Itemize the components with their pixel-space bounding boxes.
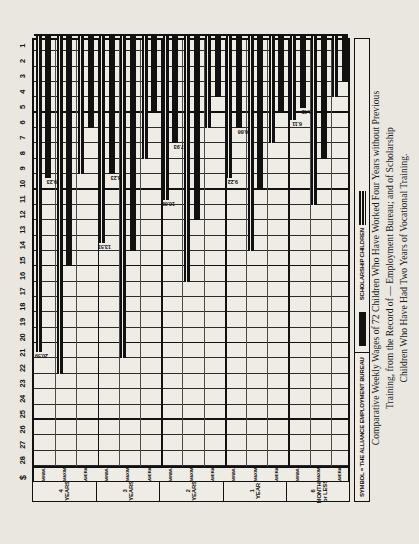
x-tick-8: 8	[18, 151, 27, 155]
x-axis-tick-row: 2827262524232221201918171615141312111098…	[18, 38, 32, 468]
bar-scholarship-children-row-4	[248, 36, 254, 251]
bar-scholarship-children-row-3	[269, 36, 275, 144]
stat-label-minimum: MINIMUM	[105, 467, 109, 481]
stat-label-average: AVERAGE	[275, 467, 279, 481]
stat-label-average: AVERAGE	[148, 467, 152, 481]
x-tick-21: 21	[18, 349, 27, 357]
figure-caption: Comparative Weekly Wages of 72 Children …	[369, 18, 413, 518]
bar-value-label: 9.23	[47, 179, 57, 185]
group-label-3-years: 3 YEARS	[97, 481, 161, 501]
x-tick-9: 9	[18, 167, 27, 171]
stat-label-average: AVERAGE	[84, 467, 88, 481]
x-tick-14: 14	[18, 241, 27, 249]
legend-entry-bureau	[355, 306, 369, 352]
stat-label-maximum: MAXIMUM	[317, 467, 321, 481]
x-tick-17: 17	[18, 288, 27, 296]
bar-scholarship-children-row-10	[120, 36, 126, 359]
currency-symbol: $	[18, 475, 28, 480]
stat-label-average: AVERAGE	[338, 467, 342, 481]
x-tick-16: 16	[18, 272, 27, 280]
x-tick-15: 15	[18, 257, 27, 265]
stat-label-column: MINIMUMMAXIMUMAVERAGEMINIMUMMAXIMUMAVERA…	[32, 468, 350, 482]
x-tick-13: 13	[18, 226, 27, 234]
bar-the-alliance-employment-bureau-row-12	[88, 36, 94, 128]
stat-label-minimum: MINIMUM	[169, 467, 173, 481]
bar-the-alliance-employment-bureau-row-13	[66, 36, 72, 266]
bar-scholarship-children-row-9	[142, 36, 148, 159]
bar-scholarship-children-row-0	[332, 36, 338, 97]
bar-scholarship-children-row-14	[36, 36, 42, 352]
bar-the-alliance-employment-bureau-row-4	[257, 36, 263, 190]
stat-label-maximum: MAXIMUM	[254, 467, 258, 481]
group-label-4-years: 4 YEARS	[33, 481, 97, 501]
x-tick-19: 19	[18, 318, 27, 326]
x-tick-23: 23	[18, 380, 27, 388]
bar-the-alliance-employment-bureau-row-11	[109, 36, 115, 174]
legend: SYMBOL = THE ALLIANCE EMPLOYMENT BUREAU …	[354, 38, 370, 502]
x-tick-1: 1	[18, 44, 27, 48]
caption-line-1: Comparative Weekly Wages of 72 Children …	[369, 18, 383, 518]
bar-the-alliance-employment-bureau-row-10	[130, 36, 136, 251]
bar-value-label: 8.23	[111, 175, 121, 181]
bar-value-label: 10.69	[162, 201, 175, 207]
bar-scholarship-children-row-1	[311, 36, 317, 205]
stat-label-maximum: MAXIMUM	[63, 467, 67, 481]
bar-scholarship-children-row-11	[99, 36, 105, 243]
x-tick-24: 24	[18, 395, 27, 403]
legend-swatch-solid-icon	[359, 312, 366, 346]
stat-label-maximum: MAXIMUM	[190, 467, 194, 481]
legend-symbol-note: SYMBOL = THE ALLIANCE EMPLOYMENT BUREAU	[355, 352, 369, 501]
x-tick-5: 5	[18, 105, 27, 109]
plot-area: 6.115.489.226.6610.697.9313.518.2320.599…	[32, 38, 350, 468]
bar-scholarship-children-row-7	[184, 36, 190, 282]
legend-swatch-striped-icon	[359, 191, 366, 225]
group-label-2-years: 2 YEARS	[160, 481, 224, 501]
bar-the-alliance-employment-bureau-row-3	[278, 36, 284, 113]
bar-scholarship-children-row-5	[226, 36, 232, 178]
x-tick-27: 27	[18, 441, 27, 449]
x-tick-28: 28	[18, 456, 27, 464]
caption-line-3: Children Who Have Had Two Years of Vocat…	[397, 18, 411, 518]
bar-the-alliance-employment-bureau-row-7	[194, 36, 200, 220]
bar-scholarship-children-row-13	[57, 36, 63, 374]
bar-the-alliance-employment-bureau-row-9	[151, 36, 157, 113]
bar-scholarship-children-row-8	[163, 36, 169, 200]
group-label-6-months-or-less: 6 MONTHS or LESS	[287, 481, 351, 501]
bar-the-alliance-employment-bureau-row-14	[45, 36, 51, 178]
x-tick-26: 26	[18, 426, 27, 434]
bar-value-label: 9.22	[228, 179, 238, 185]
chart-plate: 2827262524232221201918171615141312111098…	[18, 20, 402, 524]
x-tick-11: 11	[18, 196, 27, 203]
x-tick-12: 12	[18, 211, 27, 219]
x-tick-22: 22	[18, 364, 27, 372]
x-tick-4: 4	[18, 90, 27, 94]
bar-value-label: 6.11	[292, 121, 302, 127]
stat-label-minimum: MINIMUM	[296, 467, 300, 481]
x-tick-10: 10	[18, 180, 27, 188]
stat-label-minimum: MINIMUM	[42, 467, 46, 481]
bar-the-alliance-employment-bureau-row-0	[342, 36, 348, 82]
group-label-column: 4 YEARS3 YEARS2 YEARS1 YEAR6 MONTHS or L…	[32, 482, 350, 502]
x-tick-2: 2	[18, 59, 27, 63]
bar-scholarship-children-row-12	[78, 36, 84, 174]
x-tick-6: 6	[18, 121, 27, 125]
stat-label-maximum: MAXIMUM	[126, 467, 130, 481]
bar-the-alliance-employment-bureau-row-1	[321, 36, 327, 159]
stat-label-minimum: MINIMUM	[232, 467, 236, 481]
bar-value-label: 5.48	[301, 109, 311, 115]
legend-entry-scholarship: SCHOLARSHIP CHILDREN	[355, 185, 369, 306]
caption-line-2: Training, from the Record of — Employmen…	[383, 18, 397, 518]
bar-scholarship-children-row-2	[290, 36, 296, 120]
x-tick-18: 18	[18, 303, 27, 311]
group-label-1-year: 1 YEAR	[224, 481, 288, 501]
x-tick-20: 20	[18, 334, 27, 342]
x-tick-7: 7	[18, 136, 27, 140]
bar-scholarship-children-row-6	[205, 36, 211, 128]
bar-value-label: 7.93	[174, 145, 184, 151]
stat-label-average: AVERAGE	[211, 467, 215, 481]
bars-layer: 6.115.489.226.6610.697.9313.518.2320.599…	[34, 40, 348, 466]
bar-the-alliance-employment-bureau-row-5	[236, 36, 242, 128]
bar-value-label: 6.66	[238, 129, 248, 135]
x-tick-3: 3	[18, 74, 27, 78]
bar-the-alliance-employment-bureau-row-2	[300, 36, 306, 108]
